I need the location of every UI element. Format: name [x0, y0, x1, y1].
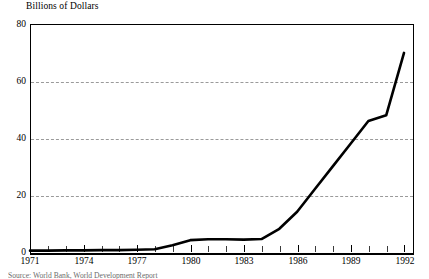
chart-figure: Billions of Dollars 80 60 40 20 0 — [0, 0, 429, 279]
data-series-layer — [0, 0, 429, 279]
line-series-value — [30, 53, 404, 251]
source-note: Source: World Bank, World Development Re… — [8, 272, 158, 279]
